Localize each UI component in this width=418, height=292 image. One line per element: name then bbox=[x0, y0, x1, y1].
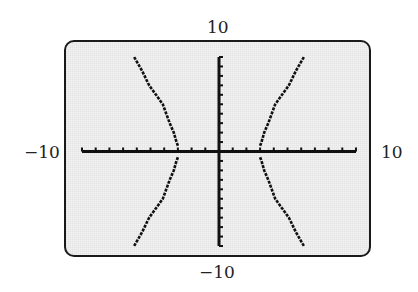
axes bbox=[82, 57, 356, 246]
plot-area bbox=[0, 0, 418, 292]
hyperbola-branch bbox=[134, 157, 178, 246]
hyperbola-branch bbox=[260, 157, 304, 246]
hyperbola-branch bbox=[134, 57, 178, 146]
hyperbola-branch bbox=[260, 57, 304, 146]
